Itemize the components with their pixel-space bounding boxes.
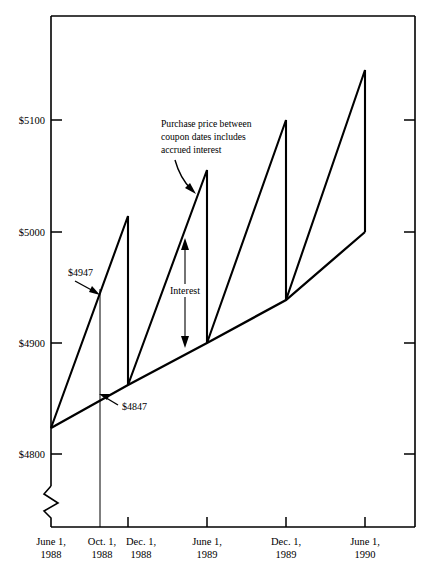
x-axis-label-0-line1: June 1, <box>36 536 66 547</box>
annotation-interest-span: Interest <box>169 238 204 348</box>
y-axis-label-0: $5100 <box>19 115 45 126</box>
x-axis-label-4-line1: Dec. 1, <box>271 536 301 547</box>
y-axis-label-1: $5000 <box>19 227 45 238</box>
x-axis-label-2-line1: Dec. 1, <box>126 536 156 547</box>
annotation-interest-arrowhead-bottom <box>181 336 189 348</box>
x-axis-label-5-line2: 1990 <box>355 549 376 560</box>
y-axis-ticks-right <box>404 120 415 454</box>
annotation-purchase-price-line3: accrued interest <box>161 144 222 155</box>
y-axis-label-2: $4900 <box>19 338 45 349</box>
y-axis-label-3: $4800 <box>19 449 45 460</box>
annotation-price-4847-label: $4847 <box>122 401 147 412</box>
annotation-price-4947: $4947 <box>68 267 100 295</box>
x-axis-label-3-line2: 1989 <box>197 549 218 560</box>
axis-break-zigzag <box>44 486 58 527</box>
y-axis-labels: $5100 $5000 $4900 $4800 <box>19 115 45 460</box>
bond-price-chart: $5100 $5000 $4900 $4800 June 1, 1988 Oct… <box>0 0 429 568</box>
annotation-price-4947-label: $4947 <box>68 267 93 278</box>
x-axis-label-1-line2: 1988 <box>92 549 113 560</box>
annotation-purchase-price-line1: Purchase price between <box>161 118 252 129</box>
x-axis-label-0-line2: 1988 <box>41 549 62 560</box>
x-axis-labels: June 1, 1988 Oct. 1, 1988 Dec. 1, 1988 J… <box>36 536 380 560</box>
x-axis-label-1-line1: Oct. 1, <box>88 536 116 547</box>
chart-figure: $5100 $5000 $4900 $4800 June 1, 1988 Oct… <box>0 0 429 568</box>
x-axis-label-5-line1: June 1, <box>350 536 380 547</box>
annotation-price-4947-arrowhead <box>89 286 100 295</box>
x-axis-label-3-line1: June 1, <box>192 536 222 547</box>
x-axis-ticks <box>128 517 365 527</box>
annotation-purchase-price-line2: coupon dates includes <box>161 131 246 142</box>
annotation-price-4847: $4847 <box>99 394 147 412</box>
annotation-interest-label: Interest <box>170 285 200 296</box>
x-axis-label-2-line2: 1988 <box>131 549 152 560</box>
x-axis-label-4-line2: 1989 <box>276 549 297 560</box>
